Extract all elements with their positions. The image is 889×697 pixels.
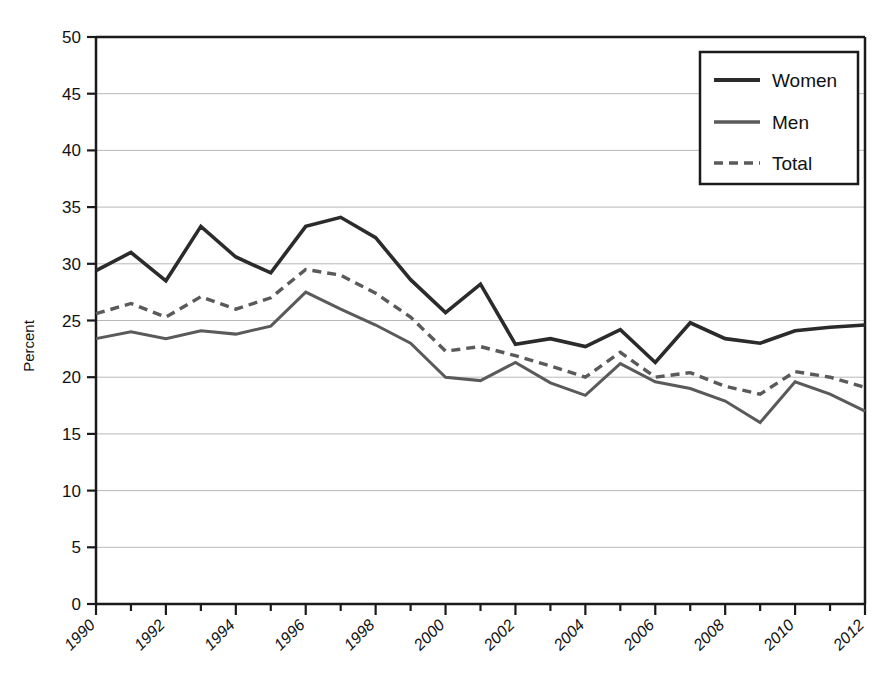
legend-label-women: Women (772, 70, 837, 91)
y-tick-label: 40 (62, 141, 81, 160)
x-tick-label: 1996 (271, 616, 308, 653)
x-tick-label: 2012 (829, 616, 867, 654)
y-axis-title: Percent (20, 319, 37, 372)
x-tick-label: 2008 (689, 616, 727, 654)
x-tick-label: 1990 (61, 616, 98, 653)
y-tick-label: 30 (62, 255, 81, 274)
y-tick-label: 0 (72, 595, 81, 614)
legend: Women Men Total (700, 52, 858, 184)
y-tick-label: 15 (62, 425, 81, 444)
legend-label-men: Men (772, 112, 809, 133)
y-axis-ticks: 05101520253035404550 (62, 28, 96, 614)
y-tick-label: 5 (72, 538, 81, 557)
x-axis-ticks (96, 604, 865, 615)
y-tick-label: 50 (62, 28, 81, 47)
y-tick-label: 45 (62, 85, 81, 104)
x-tick-label: 2006 (619, 616, 657, 654)
y-tick-label: 10 (62, 482, 81, 501)
x-tick-label: 2004 (550, 616, 588, 654)
line-chart: 05101520253035404550 1990199219941996199… (0, 0, 889, 697)
x-tick-label: 2010 (759, 616, 797, 654)
x-tick-label: 1998 (341, 616, 378, 653)
chart-svg: 05101520253035404550 1990199219941996199… (0, 0, 889, 697)
x-axis-tick-labels: 1990199219941996199820002002200420062008… (61, 616, 867, 654)
y-tick-label: 25 (62, 312, 81, 331)
x-tick-label: 2000 (410, 616, 448, 654)
legend-label-total: Total (772, 153, 812, 174)
y-tick-label: 35 (62, 198, 81, 217)
x-tick-label: 1992 (131, 616, 168, 653)
x-tick-label: 2002 (480, 616, 518, 654)
x-tick-label: 1994 (201, 616, 238, 653)
y-tick-label: 20 (62, 368, 81, 387)
